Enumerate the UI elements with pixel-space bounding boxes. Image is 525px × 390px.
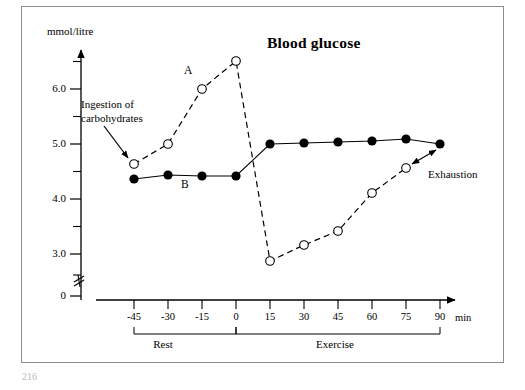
series-b-line	[134, 139, 440, 179]
y-axis-break-icon	[74, 275, 84, 287]
series-a-line	[134, 61, 406, 261]
figure-container: mmol/litre Blood glucose 6.0 5.0 4.0 3.0…	[0, 0, 525, 390]
x-axis	[96, 300, 455, 309]
series-a-point-75	[402, 164, 411, 173]
series-b-point--15	[197, 171, 206, 180]
plot-svg	[0, 0, 525, 390]
series-b-point--30	[163, 170, 172, 179]
series-a-point-45	[334, 227, 343, 236]
series-a-point-60	[368, 189, 377, 198]
series-b-point-30	[299, 138, 308, 147]
series-a-point--30	[164, 140, 173, 149]
series-a-point-30	[300, 241, 309, 250]
series-a-point--45	[130, 160, 139, 169]
series-b-point-0	[231, 171, 240, 180]
phase-bracket-rest	[134, 327, 236, 334]
phase-bracket-exercise	[236, 327, 440, 334]
series-b-point-15	[265, 139, 274, 148]
series-b-point-45	[333, 137, 342, 146]
series-b-point-90	[435, 139, 444, 148]
annotation-exhaustion-arrow	[412, 150, 436, 164]
series-a-point-15	[266, 257, 275, 266]
series-b-point-60	[367, 136, 376, 145]
series-a-markers	[130, 57, 411, 266]
y-axis	[70, 50, 84, 300]
series-b-point--45	[129, 174, 138, 183]
annotation-ingestion-arrow	[104, 126, 128, 158]
series-a-point--15	[198, 85, 207, 94]
series-a-point-0	[232, 57, 241, 66]
series-b-markers	[129, 134, 444, 183]
series-b-point-75	[401, 134, 410, 143]
